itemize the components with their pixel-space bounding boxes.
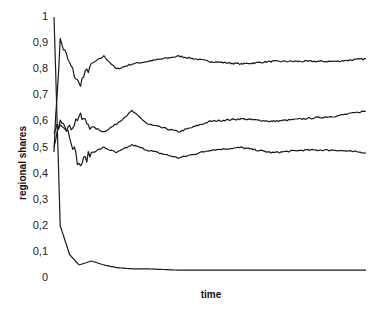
series-line-1 bbox=[54, 38, 366, 152]
y-tick-label: 1 bbox=[18, 10, 48, 22]
y-tick-label: 0,7 bbox=[18, 88, 48, 100]
series-line-2 bbox=[54, 111, 366, 134]
series-line-3 bbox=[54, 120, 366, 166]
chart-area: 00,10,20,30,40,50,60,70,80,91 regional s… bbox=[0, 0, 384, 314]
y-tick-label: 0,1 bbox=[18, 245, 48, 257]
y-axis-label: regional shares bbox=[17, 126, 28, 200]
series-line-4 bbox=[54, 17, 366, 270]
x-axis-label: time bbox=[201, 289, 222, 300]
y-tick-label: 0,6 bbox=[18, 114, 48, 126]
y-tick-label: 0 bbox=[18, 271, 48, 283]
y-tick-label: 0,9 bbox=[18, 36, 48, 48]
plot-lines bbox=[0, 0, 384, 314]
y-tick-label: 0,8 bbox=[18, 62, 48, 74]
y-tick-label: 0,2 bbox=[18, 219, 48, 231]
